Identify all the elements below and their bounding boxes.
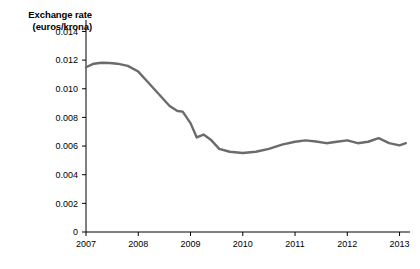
y-axis-tick-label: 0: [73, 227, 78, 237]
y-axis-tick-label: 0.012: [55, 55, 78, 65]
data-series-line: [86, 63, 406, 153]
x-axis-tick-label: 2009: [181, 239, 201, 249]
y-axis-title-line-1: Exchange rate: [28, 9, 92, 20]
x-axis-tick-label: 2008: [128, 239, 148, 249]
x-axis-tick-label: 2010: [233, 239, 253, 249]
y-axis-tick-label: 0.006: [55, 141, 78, 151]
y-axis-ticks: 00.0020.0040.0060.0080.0100.0120.014: [55, 27, 86, 238]
x-axis-ticks: 2007200820092010201120122013: [76, 232, 410, 249]
x-axis-tick-label: 2013: [390, 239, 410, 249]
exchange-rate-line-chart: Exchange rate (euros/krona) 00.0020.0040…: [0, 0, 420, 269]
y-axis-tick-label: 0.004: [55, 170, 78, 180]
y-axis-title-line-2: (euros/krona): [6, 21, 92, 33]
y-axis-title: Exchange rate (euros/krona): [6, 9, 92, 33]
y-axis-tick-label: 0.002: [55, 199, 78, 209]
x-axis-tick-label: 2011: [285, 239, 304, 249]
y-axis-tick-label: 0.010: [55, 84, 78, 94]
x-axis-tick-label: 2012: [337, 239, 357, 249]
y-axis-tick-label: 0.008: [55, 113, 78, 123]
x-axis-tick-label: 2007: [76, 239, 96, 249]
plot-area: 00.0020.0040.0060.0080.0100.0120.014 200…: [0, 0, 420, 269]
